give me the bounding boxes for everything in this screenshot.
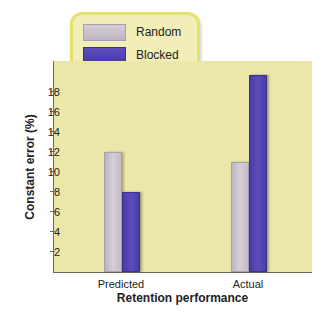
y-tick-label: 16 [40,107,60,118]
bar-actual-blocked [249,75,267,272]
legend-label-blocked: Blocked [136,48,179,62]
y-axis-label: Constant error (%) [23,107,37,227]
legend-label-random: Random [136,25,181,39]
legend-swatch-random [83,24,126,41]
bar-predicted-random [104,152,122,272]
plot-area [53,61,312,273]
y-tick-label: 8 [40,187,60,198]
y-tick-label: 12 [40,147,60,158]
y-tick-label: 6 [40,207,60,218]
x-axis-label: Retention performance [53,291,312,305]
x-category-label: Predicted [81,278,161,290]
y-tick-label: 4 [40,227,60,238]
y-tick-label: 2 [40,247,60,258]
x-category-label: Actual [208,278,288,290]
bar-predicted-blocked [122,192,140,272]
y-tick-label: 14 [40,127,60,138]
y-tick-label: 10 [40,167,60,178]
y-tick-label: 18 [40,87,60,98]
bar-actual-random [231,162,249,272]
